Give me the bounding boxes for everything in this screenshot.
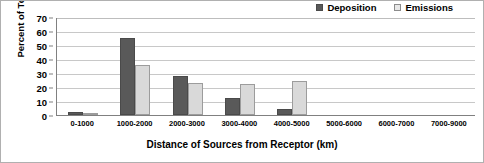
x-axis-tick-label: 3000-4000	[213, 119, 265, 131]
y-axis-tick-label: 30	[36, 69, 47, 80]
y-axis-tick-mark	[49, 116, 53, 117]
legend-label: Deposition	[327, 2, 376, 13]
x-axis-title: Distance of Sources from Receptor (km)	[1, 139, 483, 150]
bar-group	[371, 18, 423, 115]
bar-emissions-2000-3000	[188, 83, 203, 115]
y-axis-tick-mark	[49, 102, 53, 103]
x-axis-tick-label: 2000-3000	[161, 119, 213, 131]
y-axis-tick-label: 0	[42, 111, 47, 122]
chart-legend: DepositionEmissions	[316, 2, 453, 13]
y-axis-tick-label: 20	[36, 83, 47, 94]
y-axis-tick-mark	[49, 32, 53, 33]
x-axis-tick-label: 5000-6000	[318, 119, 370, 131]
x-axis-tick-label: 7000-9000	[423, 119, 475, 131]
bar-chart-figure: Percent of Total 010203040506070 Deposit…	[0, 0, 484, 163]
bar-emissions-4000-5000	[292, 81, 307, 115]
legend-swatch-icon	[394, 4, 401, 11]
bar-deposition-2000-3000	[173, 76, 188, 115]
bar-emissions-1000-2000	[135, 65, 150, 115]
legend-entry-deposition[interactable]: Deposition	[316, 2, 376, 13]
y-axis-tick-label: 10	[36, 97, 47, 108]
bar-group	[318, 18, 370, 115]
x-axis-tick-labels: 0-10001000-20002000-30003000-40004000-50…	[56, 119, 475, 131]
x-axis-tick-label: 1000-2000	[108, 119, 160, 131]
bar-deposition-3000-4000	[225, 98, 240, 115]
y-axis-tick-labels: 010203040506070	[1, 18, 53, 116]
legend-entry-emissions[interactable]: Emissions	[394, 2, 453, 13]
x-axis-tick-label: 6000-7000	[370, 119, 422, 131]
y-axis-tick-label: 50	[36, 41, 47, 52]
legend-swatch-icon	[316, 4, 323, 11]
plot-area	[56, 18, 475, 116]
bar-group	[162, 18, 214, 115]
bar-group	[423, 18, 475, 115]
bar-emissions-0-1000	[83, 113, 98, 115]
bar-groups	[57, 18, 475, 115]
bar-emissions-3000-4000	[240, 84, 255, 115]
legend-label: Emissions	[405, 2, 453, 13]
y-axis-tick-mark	[49, 88, 53, 89]
y-axis-tick-label: 70	[36, 13, 47, 24]
y-axis-tick-label: 60	[36, 27, 47, 38]
bar-group	[214, 18, 266, 115]
y-axis-tick-mark	[49, 60, 53, 61]
y-axis-tick-mark	[49, 74, 53, 75]
bar-deposition-4000-5000	[277, 109, 292, 115]
bar-deposition-1000-2000	[120, 38, 135, 115]
bar-group	[57, 18, 109, 115]
x-axis-tick-label: 4000-5000	[266, 119, 318, 131]
y-axis-tick-mark	[49, 18, 53, 19]
bar-group	[109, 18, 161, 115]
y-axis-tick-mark	[49, 46, 53, 47]
x-axis-tick-label: 0-1000	[56, 119, 108, 131]
y-axis-tick-label: 40	[36, 55, 47, 66]
bar-deposition-0-1000	[68, 112, 83, 115]
bar-group	[266, 18, 318, 115]
